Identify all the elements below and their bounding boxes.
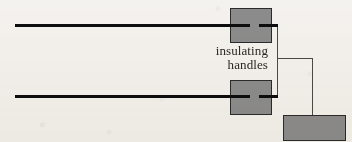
insulating-handles-label-line-2: handles <box>168 58 268 73</box>
physics-diagram-figure: insulating handles <box>0 0 352 142</box>
electroscope-body-block <box>283 115 345 140</box>
